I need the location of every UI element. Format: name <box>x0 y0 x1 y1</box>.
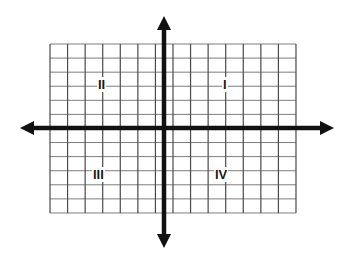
quadrant-3-label: III <box>92 167 105 182</box>
quadrant-2-label: II <box>97 77 106 92</box>
coordinate-plane-figure: II I III IV <box>0 0 349 260</box>
quadrant-4-label: IV <box>214 167 228 182</box>
coordinate-plane-svg <box>0 0 349 260</box>
y-axis-top-arrowhead-icon <box>157 16 171 30</box>
x-axis-right-arrowhead-icon <box>320 121 334 135</box>
x-axis-left-arrowhead-icon <box>20 121 34 135</box>
y-axis-bottom-arrowhead-icon <box>157 234 171 248</box>
quadrant-1-label: I <box>222 77 228 92</box>
